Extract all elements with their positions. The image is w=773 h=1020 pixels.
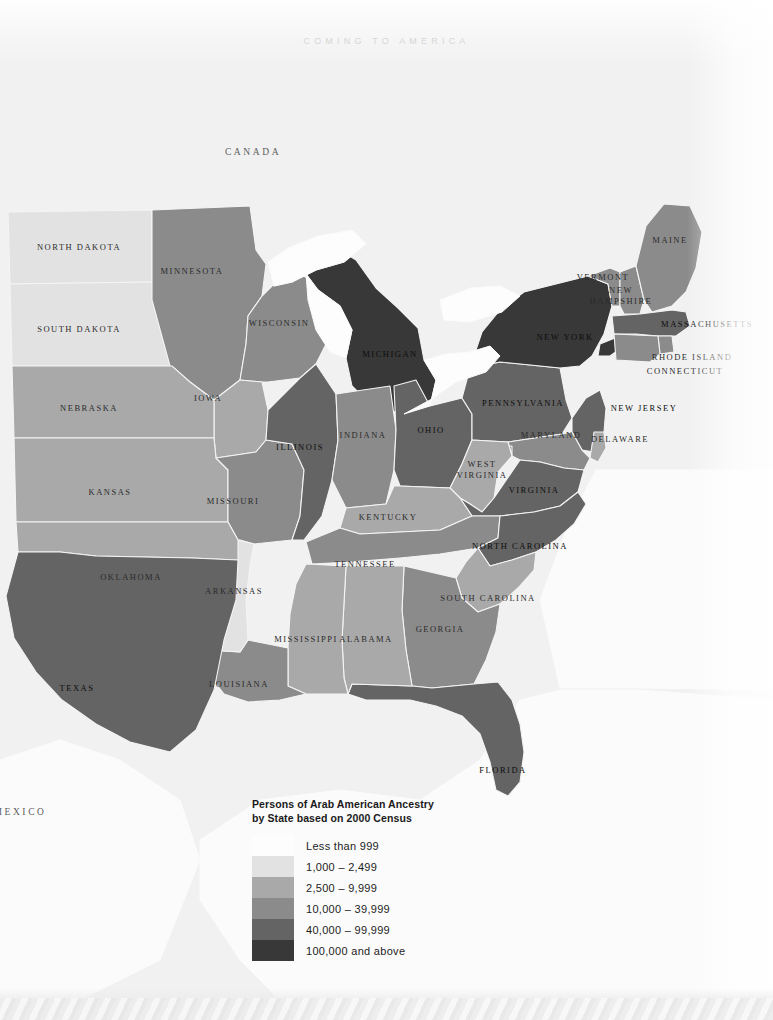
legend-title-line1: Persons of Arab American Ancestry — [252, 798, 482, 812]
page-edge-fade — [0, 988, 773, 998]
legend-swatch-list: Less than 9991,000 – 2,4992,500 – 9,9991… — [252, 835, 482, 961]
state-nebraska[interactable] — [12, 366, 214, 438]
state-kansas[interactable] — [14, 438, 228, 522]
legend-row: 10,000 – 39,999 — [252, 898, 482, 919]
state-north-dakota[interactable] — [8, 210, 152, 284]
legend-color-swatch — [252, 919, 294, 940]
page-deckle-edge — [0, 998, 773, 1020]
running-head: COMING TO AMERICA — [0, 36, 773, 46]
legend-range-label: 10,000 – 39,999 — [306, 903, 390, 915]
legend-range-label: 2,500 – 9,999 — [306, 882, 377, 894]
state-indiana[interactable] — [332, 386, 396, 508]
right-page-margin — [687, 0, 773, 1020]
state-mississippi[interactable] — [288, 564, 348, 694]
legend-title-line2: by State based on 2000 Census — [252, 812, 482, 826]
legend-row: 100,000 and above — [252, 940, 482, 961]
state-alabama[interactable] — [342, 566, 412, 694]
legend-row: 40,000 – 99,999 — [252, 919, 482, 940]
top-page-margin — [0, 0, 773, 64]
legend-range-label: 100,000 and above — [306, 945, 405, 957]
legend-range-label: 40,000 – 99,999 — [306, 924, 390, 936]
legend-range-label: 1,000 – 2,499 — [306, 861, 377, 873]
legend-title: Persons of Arab American Ancestry by Sta… — [252, 798, 482, 825]
legend-color-swatch — [252, 898, 294, 919]
state-rhode-island[interactable] — [658, 336, 674, 354]
legend-color-swatch — [252, 940, 294, 961]
legend-row: 1,000 – 2,499 — [252, 856, 482, 877]
legend-row: Less than 999 — [252, 835, 482, 856]
map-page: NORTH DAKOTASOUTH DAKOTAMINNESOTAWISCONS… — [0, 0, 773, 1020]
legend-color-swatch — [252, 835, 294, 856]
state-south-dakota[interactable] — [10, 282, 172, 366]
state-connecticut[interactable] — [614, 334, 660, 362]
map-legend: Persons of Arab American Ancestry by Sta… — [252, 798, 482, 961]
legend-row: 2,500 – 9,999 — [252, 877, 482, 898]
legend-color-swatch — [252, 856, 294, 877]
legend-color-swatch — [252, 877, 294, 898]
legend-range-label: Less than 999 — [306, 840, 379, 852]
